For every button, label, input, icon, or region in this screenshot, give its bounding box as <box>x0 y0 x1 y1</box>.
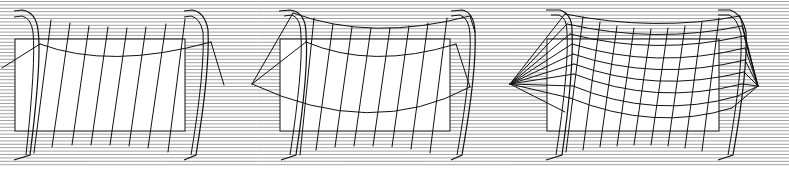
fan-cable <box>745 48 758 86</box>
sheet-rectangle <box>280 39 450 131</box>
guy-cable <box>211 42 224 85</box>
diagram-canvas <box>0 0 789 173</box>
tensile-structure-diagram <box>0 0 789 173</box>
